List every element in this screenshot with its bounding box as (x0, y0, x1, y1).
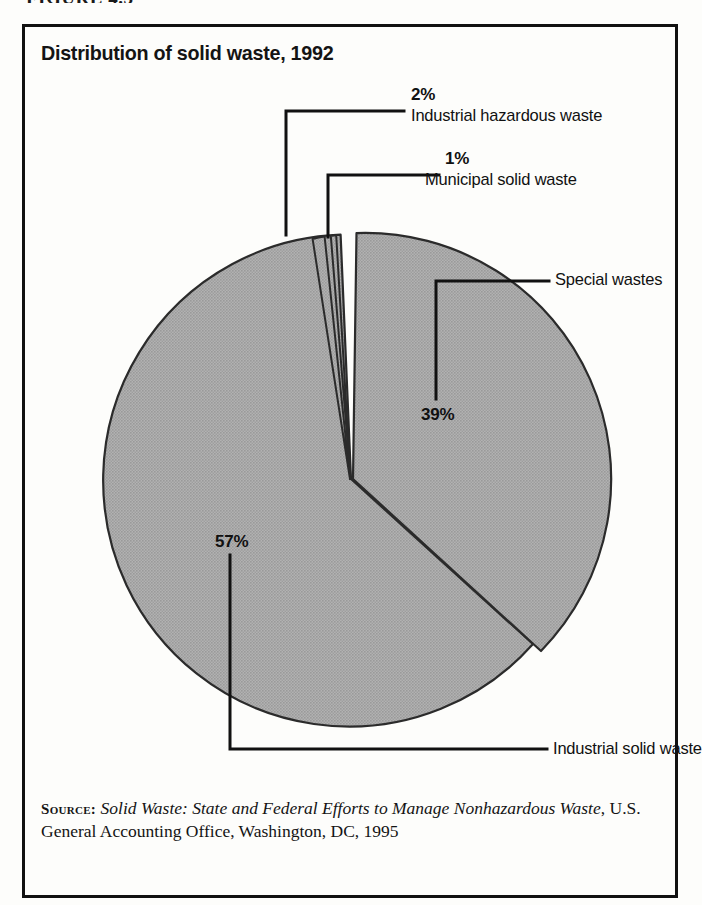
pie-chart-svg (25, 27, 675, 797)
label-special-wastes: Special wastes (555, 270, 662, 290)
label-municipal-solid-waste-percent: 1% (445, 149, 469, 169)
figure-running-head: FIGURE 4.3 (26, 0, 133, 3)
pie-slices (103, 233, 611, 727)
label-special-wastes-percent: 39% (421, 405, 454, 425)
figure-box: Distribution of solid waste, 1992 (22, 24, 678, 898)
source-title: Solid Waste: State and Federal Efforts t… (101, 798, 601, 818)
label-industrial-hazardous-waste-percent: 2% (411, 85, 435, 105)
label-industrial-solid-waste-percent: 57% (215, 532, 248, 552)
source-note: Source: Solid Waste: State and Federal E… (41, 797, 651, 844)
source-label: Source: (41, 801, 96, 817)
leader-line-industrial-hazardous-waste (286, 111, 404, 235)
label-municipal-solid-waste: Municipal solid waste (425, 170, 577, 190)
leader-line-municipal-solid-waste (328, 175, 439, 237)
pie-chart: 2% Industrial hazardous waste 1% Municip… (25, 27, 675, 797)
label-industrial-hazardous-waste: Industrial hazardous waste (411, 106, 602, 126)
label-industrial-solid-waste: Industrial solid waste (553, 739, 702, 759)
